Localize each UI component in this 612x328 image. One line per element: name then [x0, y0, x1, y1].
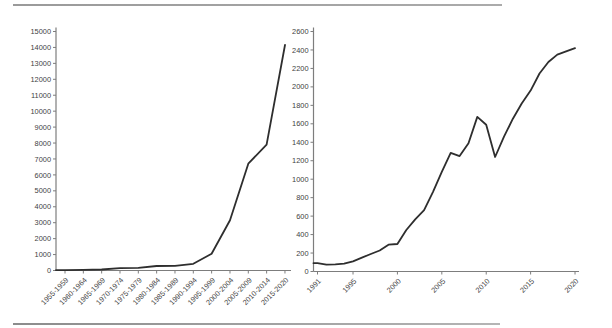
series-line	[314, 48, 576, 265]
y-tick-label: 1800	[292, 101, 308, 110]
x-tick-label: 2020	[562, 277, 580, 295]
x-tick-label: 1995	[340, 277, 358, 295]
x-tick-label: 2015	[518, 277, 536, 295]
x-tick-label: 2010	[474, 277, 492, 295]
x-tick-label: 2005	[429, 277, 447, 295]
y-tick-label: 2600	[292, 27, 308, 36]
y-tick-label: 400	[296, 230, 308, 239]
y-tick-label: 800	[296, 193, 308, 202]
right-line-chart: 0200400600800100012001400160018002000220…	[0, 0, 612, 328]
bottom-rule	[13, 323, 500, 325]
y-tick-label: 0	[304, 267, 308, 276]
y-tick-label: 1600	[292, 119, 308, 128]
figure-panel: 0100020003000400050006000700080009000100…	[0, 0, 612, 328]
y-tick-label: 200	[296, 249, 308, 258]
x-tick-label: 1991	[305, 277, 323, 295]
y-tick-label: 2200	[292, 64, 308, 73]
y-tick-label: 2000	[292, 82, 308, 91]
y-tick-label: 1200	[292, 156, 308, 165]
x-tick-label: 2000	[385, 277, 403, 295]
y-tick-label: 2400	[292, 46, 308, 55]
y-tick-label: 600	[296, 212, 308, 221]
y-tick-label: 1000	[292, 175, 308, 184]
y-tick-label: 1400	[292, 138, 308, 147]
